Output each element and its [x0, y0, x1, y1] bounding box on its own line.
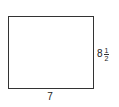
width-label: 7 [44, 92, 56, 102]
height-label: 8 1 2 [97, 44, 109, 64]
fraction-denominator: 2 [104, 54, 110, 62]
rectangle-shape [8, 16, 94, 89]
fraction-numerator: 1 [104, 47, 110, 54]
height-whole: 8 [97, 49, 103, 59]
height-fraction: 1 2 [104, 47, 110, 62]
